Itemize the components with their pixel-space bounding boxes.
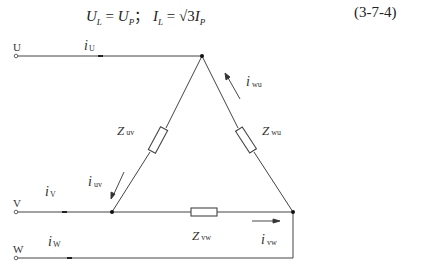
resistor-zwu [236,127,257,153]
resistor-zvw [191,208,217,216]
current-label-iwu: iwu [246,74,262,89]
impedance-label-zuv: Zuv [117,123,134,138]
terminal-label-v: V [13,197,21,209]
terminal-w [14,256,18,260]
arrow-iw [67,257,72,259]
delta-circuit-diagram: U V W iU iV iW iuv iwu ivw Zuv Zwu Zvw [0,0,421,273]
terminal-u [14,54,18,58]
arrow-iwu-head [225,73,230,80]
arrow-iwu-shaft [227,76,240,99]
edge-wu-top [202,56,238,128]
arrow-iv [62,211,67,213]
arrow-ivw-head [273,219,280,223]
current-label-iv: iV [45,184,56,199]
edge-wu-bottom [254,152,293,212]
resistor-zuv [148,127,167,154]
junction-v [110,210,114,214]
terminal-label-w: W [13,243,24,255]
impedance-label-zvw: Zvw [192,228,211,243]
arrow-iu [98,55,103,57]
terminal-v [14,210,18,214]
current-label-ivw: ivw [261,232,277,247]
terminal-label-u: U [13,41,21,53]
current-label-iw: iW [48,234,61,249]
impedance-label-zwu: Zwu [262,123,281,138]
junction-top [200,54,204,58]
edge-uv-top [166,56,202,128]
current-label-iuv: iuv [88,174,102,189]
current-label-iu: iU [84,38,95,53]
arrow-iuv-shaft [113,172,124,196]
junction-right [291,210,295,214]
edge-uv-bottom [112,152,150,212]
